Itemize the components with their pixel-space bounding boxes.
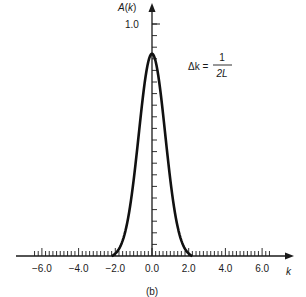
delta-k-annotation: Δk = 1 2L bbox=[188, 52, 232, 79]
x-tick-label: 6.0 bbox=[255, 263, 269, 274]
figure-caption: (b) bbox=[146, 286, 158, 297]
x-tick-label: 4.0 bbox=[218, 263, 232, 274]
y-tick-label-1: 1.0 bbox=[125, 19, 139, 30]
x-axis-label: k bbox=[286, 266, 292, 277]
x-tick-labels: −6.0−4.0−2.00.02.04.06.0 bbox=[32, 263, 269, 274]
x-tick-label: −4.0 bbox=[69, 263, 89, 274]
annotation-numerator: 1 bbox=[219, 52, 225, 63]
y-axis-arrow-icon bbox=[149, 3, 156, 12]
x-axis-arrow-icon bbox=[285, 253, 294, 260]
x-tick-label: 0.0 bbox=[145, 263, 159, 274]
chart: −6.0−4.0−2.00.02.04.06.0 1.0 A(k) k Δk =… bbox=[0, 0, 306, 297]
annotation-denominator: 2L bbox=[215, 68, 227, 79]
annotation-lhs: Δk = bbox=[188, 61, 208, 72]
x-tick-label: −6.0 bbox=[32, 263, 52, 274]
x-tick-label: −2.0 bbox=[105, 263, 125, 274]
x-tick-label: 2.0 bbox=[182, 263, 196, 274]
y-axis-label: A(k) bbox=[117, 2, 136, 13]
